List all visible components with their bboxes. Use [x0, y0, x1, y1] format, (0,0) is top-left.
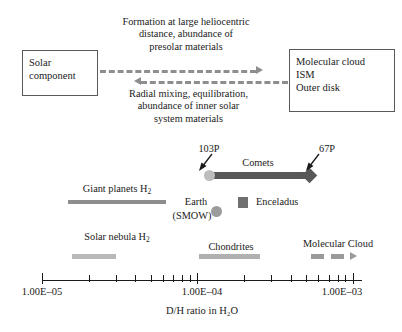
annotation-67p-arrow-icon: [303, 153, 325, 173]
molecular-cloud-box: Molecular cloud ISM Outer disk: [289, 49, 395, 112]
axis-major-tick: [42, 273, 43, 284]
giant-planets-label-text: Giant planets H: [83, 183, 148, 194]
giant-planets-label: Giant planets H2: [83, 183, 151, 196]
axis-major-tick: [197, 273, 198, 284]
axis-minor-tick: [163, 275, 164, 282]
solar-component-line-1: Solar: [29, 56, 91, 69]
axis-minor-tick: [244, 275, 245, 282]
axis-minor-tick: [345, 275, 346, 282]
leftward-arrowhead-icon: [134, 77, 141, 85]
solar-nebula-range-bar: [72, 254, 116, 259]
bottom-caption-line-1: Radial mixing, equilibration,: [86, 88, 291, 100]
rightward-dashed-line: [100, 70, 256, 73]
top-caption-line-2: distance, abundance of: [86, 28, 286, 40]
solar-component-line-2: component: [29, 69, 91, 82]
comets-label: Comets: [242, 157, 273, 168]
chondrites-range-bar: [199, 254, 260, 259]
molecular-cloud-arrowhead-icon: [350, 252, 357, 260]
rightward-arrowhead-icon: [256, 66, 263, 74]
axis-minor-tick: [271, 275, 272, 282]
bottom-caption-line-3: system materials: [86, 113, 291, 125]
axis-major-tick: [353, 273, 354, 284]
axis-minor-tick: [329, 275, 330, 282]
axis-minor-tick: [116, 275, 117, 282]
earth-smow-label: (SMOW): [173, 210, 212, 221]
solar-nebula-label: Solar nebula H2: [84, 231, 149, 244]
axis-title-text: D/H ratio in H₂O: [166, 305, 238, 316]
earth-label: Earth: [185, 196, 207, 207]
axis-minor-tick: [190, 275, 191, 282]
enceladus-marker-icon: [238, 197, 248, 208]
axis-minor-tick: [306, 275, 307, 282]
axis-minor-tick: [318, 275, 319, 282]
axis-minor-tick: [89, 275, 90, 282]
molecular-cloud-dash-1: [311, 254, 324, 259]
axis-line: [42, 280, 362, 281]
axis-minor-tick: [291, 275, 292, 282]
axis-title: D/H ratio in H₂O: [166, 305, 238, 316]
leftward-dashed-line: [141, 81, 288, 84]
top-caption-line-3: presolar materials: [86, 41, 286, 53]
enceladus-label: Enceladus: [256, 196, 298, 207]
solar-nebula-label-sub: 2: [146, 235, 150, 244]
comets-range-bar: [211, 172, 311, 179]
axis-minor-tick: [173, 275, 174, 282]
solar-nebula-label-text: Solar nebula H: [84, 231, 146, 242]
axis-minor-tick: [338, 275, 339, 282]
molecular-cloud-line-1: Molecular cloud: [296, 55, 388, 68]
axis-tick-label-1e-05: 1.00E–05: [22, 286, 63, 297]
giant-planets-label-sub: 2: [147, 187, 151, 196]
axis-tick-label-1e-04: 1.00E–04: [182, 286, 223, 297]
top-caption: Formation at large heliocentric distance…: [86, 16, 286, 53]
top-caption-line-1: Formation at large heliocentric: [86, 16, 286, 28]
dh-ratio-numberline-chart: 1.00E–05 1.00E–04 1.00E–03 D/H ratio in …: [0, 140, 402, 332]
axis-minor-tick: [151, 275, 152, 282]
axis-minor-tick: [182, 275, 183, 282]
bottom-caption-line-2: abundance of inner solar: [86, 100, 291, 112]
molecular-cloud-label: Molecular Cloud: [303, 238, 373, 249]
molecular-cloud-line-3: Outer disk: [296, 81, 388, 94]
molecular-cloud-line-2: ISM: [296, 68, 388, 81]
molecular-cloud-dash-2: [331, 254, 344, 259]
chondrites-label: Chondrites: [208, 241, 253, 252]
figure-root: Solar component Molecular cloud ISM Oute…: [0, 0, 402, 332]
bottom-caption: Radial mixing, equilibration, abundance …: [86, 88, 291, 125]
giant-planets-range-bar: [68, 200, 166, 204]
axis-minor-tick: [135, 275, 136, 282]
earth-smow-marker-icon: [211, 206, 222, 217]
annotation-103p-arrow-icon: [196, 153, 218, 173]
axis-tick-label-1e-03: 1.00E–03: [322, 286, 363, 297]
